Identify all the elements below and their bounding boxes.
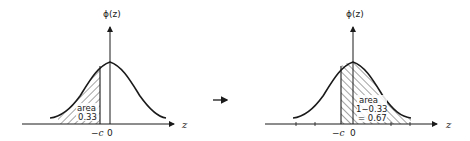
right-area-line3: = 0.67 [358, 113, 387, 123]
right-y-axis-label: ϕ(z) [346, 9, 364, 19]
left-x-axis-label: z [181, 119, 188, 130]
left-area-value: 0.33 [78, 112, 97, 122]
right-tick-neg-c: −c [332, 128, 345, 138]
left-tick-neg-c: −c [91, 128, 104, 138]
left-bell-curve [50, 62, 166, 118]
right-panel: area 1−0.33 = 0.67 ϕ(z) z −c 0 [265, 9, 452, 138]
right-tick-zero: 0 [350, 128, 356, 138]
left-tick-zero: 0 [107, 128, 113, 138]
left-y-axis-label: ϕ(z) [103, 9, 121, 19]
normal-distribution-figure: area 0.33 ϕ(z) z −c 0 area 1−0.33 [0, 0, 470, 141]
right-x-axis-label: z [445, 119, 452, 130]
left-panel: area 0.33 ϕ(z) z −c 0 [22, 9, 188, 138]
